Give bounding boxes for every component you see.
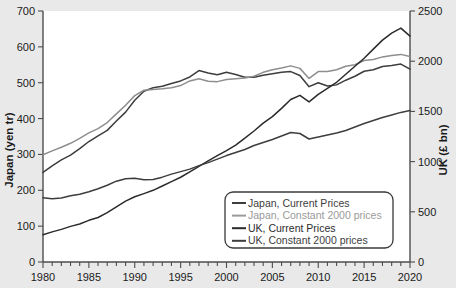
y-axis-left-tick-label: 200 <box>17 184 35 196</box>
y-axis-left-tick-label: 0 <box>29 256 35 268</box>
y-axis-left-tick-label: 600 <box>17 41 35 53</box>
y-axis-left-title: Japan (yen tr) <box>3 112 15 188</box>
y-axis-left-tick-label: 500 <box>17 77 35 89</box>
y-axis-left-tick-label: 300 <box>17 148 35 160</box>
legend-label-2: UK, Current Prices <box>248 222 336 234</box>
x-axis-tick-label: 1990 <box>123 271 147 283</box>
x-axis-tick-label: 2015 <box>352 271 376 283</box>
y-axis-right-tick-label: 1500 <box>418 105 442 117</box>
y-axis-left-tick-label: 700 <box>17 5 35 17</box>
y-axis-right-tick-label: 500 <box>418 206 436 218</box>
y-axis-right-title: UK (£ bn) <box>437 124 449 175</box>
legend-label-3: UK, Constant 2000 prices <box>248 234 368 246</box>
x-axis-tick-label: 1985 <box>77 271 101 283</box>
chart-legend[interactable]: Japan, Current PricesJapan, Constant 200… <box>225 192 393 248</box>
y-axis-right-tick-label: 0 <box>418 256 424 268</box>
x-axis-tick-label: 2010 <box>306 271 330 283</box>
x-axis-tick-label: 1995 <box>168 271 192 283</box>
y-axis-left-tick-label: 100 <box>17 220 35 232</box>
dual-axis-line-chart: 0100200300400500600700050010001500200025… <box>0 0 456 288</box>
x-axis-tick-label: 1980 <box>31 271 55 283</box>
x-axis-tick-label: 2020 <box>398 271 422 283</box>
x-axis-tick-label: 2005 <box>260 271 284 283</box>
x-axis-tick-label: 2000 <box>214 271 238 283</box>
chart-container: 0100200300400500600700050010001500200025… <box>0 0 456 288</box>
legend-label-0: Japan, Current Prices <box>248 197 350 209</box>
y-axis-right-tick-label: 2500 <box>418 5 442 17</box>
y-axis-right-tick-label: 2000 <box>418 55 442 67</box>
legend-label-1: Japan, Constant 2000 prices <box>248 209 382 221</box>
y-axis-left-tick-label: 400 <box>17 113 35 125</box>
